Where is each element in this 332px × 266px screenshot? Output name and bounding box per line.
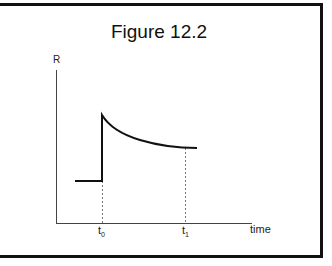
svg-text:t1: t1 — [182, 224, 189, 238]
response-curve — [75, 115, 197, 181]
xtick-t0: t0 — [98, 224, 105, 238]
y-axis-label: R — [53, 54, 60, 65]
svg-text:t0: t0 — [98, 224, 105, 238]
x-axis-label: time — [250, 223, 271, 235]
plot-area: R time t0 t1 — [0, 0, 332, 266]
xtick-t1: t1 — [182, 224, 189, 238]
